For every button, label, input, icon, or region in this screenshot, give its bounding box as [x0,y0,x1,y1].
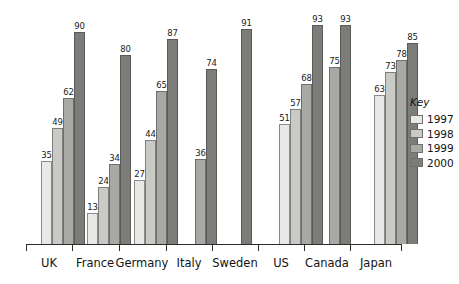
legend-label: 1997 [427,114,454,125]
bar-value-label: 44 [145,130,155,139]
bar[interactable] [87,213,98,244]
bar-slot: 62 [63,8,74,244]
legend-label: 1999 [427,143,454,154]
axis-tick [212,244,213,251]
bar-slot: 74 [206,8,217,244]
bar[interactable] [374,95,385,244]
bar-slot: 87 [167,8,178,244]
bar-slot: 36 [195,8,206,244]
bar-value-label: 74 [206,59,216,68]
bar-group: 91 [241,8,252,244]
category-label-germany: Germany [116,256,169,270]
bar-value-label: 63 [374,85,384,94]
bar-slot: 35 [41,8,52,244]
category-label-japan: Japan [360,256,392,270]
bar-value-label: 80 [120,45,130,54]
legend-entry-1998[interactable]: 1998 [410,129,458,140]
bar-slot: 49 [52,8,63,244]
bar-value-label: 91 [241,19,251,28]
bar[interactable] [340,25,351,244]
bar[interactable] [241,29,252,244]
bar[interactable] [301,84,312,244]
bar-slot: 51 [279,8,290,244]
bar[interactable] [134,180,145,244]
bar[interactable] [156,91,167,244]
bar[interactable] [145,140,156,244]
legend-entry-1999[interactable]: 1999 [410,143,458,154]
bar[interactable] [396,60,407,244]
bar-value-label: 34 [109,154,119,163]
bar-value-label: 24 [98,177,108,186]
bar[interactable] [206,69,217,244]
axis-tick [166,244,167,251]
bar-value-label: 51 [279,114,289,123]
legend-swatch-icon [410,158,423,167]
legend-swatch-icon [410,129,423,138]
bar[interactable] [167,39,178,244]
bar-slot: 80 [120,8,131,244]
bar[interactable] [385,72,396,244]
category-label-us: US [273,256,289,270]
category-label-sweden: Sweden [212,256,257,270]
bar[interactable] [329,67,340,244]
chart-legend: Key 1997199819992000 [410,96,458,172]
legend-label: 1998 [427,129,454,140]
bar-group: 13243480 [87,8,131,244]
bar-slot: 44 [145,8,156,244]
bar-slot: 91 [241,8,252,244]
bar-slot: 78 [396,8,407,244]
bar-slot: 24 [98,8,109,244]
legend-label: 2000 [427,158,454,169]
bar-chart: 3549629013243480274465873674915157689375… [0,0,459,284]
axis-tick [26,244,27,251]
bar-value-label: 93 [312,15,322,24]
bar-value-label: 62 [63,88,73,97]
bar-value-label: 35 [41,151,51,160]
legend-swatch-icon [410,115,423,124]
bar[interactable] [52,128,63,244]
bar-value-label: 78 [396,50,406,59]
axis-tick [258,244,259,251]
bar-group: 51576893 [279,8,323,244]
bar[interactable] [312,25,323,244]
legend-entry-2000[interactable]: 2000 [410,158,458,169]
bar-slot: 27 [134,8,145,244]
bar-group: 3674 [195,8,217,244]
bar-slot: 13 [87,8,98,244]
plot-area: 3549629013243480274465873674915157689375… [26,8,401,244]
bar-slot: 63 [374,8,385,244]
bar-group: 35496290 [41,8,85,244]
bar[interactable] [195,159,206,244]
bar-slot: 93 [340,8,351,244]
axis-tick [401,244,402,251]
bar-value-label: 93 [340,15,350,24]
bar-slot: 34 [109,8,120,244]
bar[interactable] [109,164,120,244]
axis-tick [119,244,120,251]
bar[interactable] [120,55,131,244]
axis-tick [72,244,73,251]
bar[interactable] [63,98,74,244]
bar-slot: 90 [74,8,85,244]
category-label-uk: UK [41,256,57,270]
bar-value-label: 87 [167,29,177,38]
bar[interactable] [98,187,109,244]
category-label-italy: Italy [177,256,202,270]
bar[interactable] [74,32,85,244]
bar-slot: 73 [385,8,396,244]
legend-entry-1997[interactable]: 1997 [410,114,458,125]
bar-slot: 57 [290,8,301,244]
bar[interactable] [290,109,301,244]
bar-group: 27446587 [134,8,178,244]
bar-value-label: 13 [87,203,97,212]
bar-value-label: 65 [156,81,166,90]
legend-title: Key [410,96,458,108]
bar-slot: 75 [329,8,340,244]
bar[interactable] [41,161,52,244]
bar-value-label: 73 [385,62,395,71]
bar[interactable] [279,124,290,244]
bar-value-label: 49 [52,118,62,127]
bar-group: 7593 [329,8,351,244]
bar-value-label: 27 [134,170,144,179]
bar-value-label: 57 [290,99,300,108]
